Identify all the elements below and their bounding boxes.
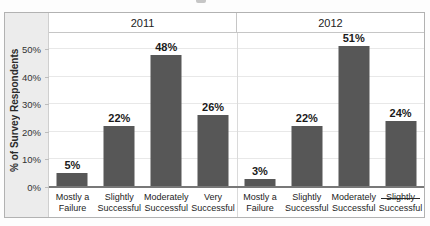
bar-2012-slightly xyxy=(291,126,322,187)
category-label: SlightlySuccessful xyxy=(283,192,330,214)
category-line2: Successful xyxy=(96,203,143,214)
bar-2011-mostly-a xyxy=(57,173,88,187)
category-label: SlightlySuccessful xyxy=(377,192,424,214)
bar-slot: 22% xyxy=(96,33,143,187)
category-line2: Successful xyxy=(377,203,424,214)
category-line1: Slightly xyxy=(292,192,321,202)
y-tick-label-10: 10% xyxy=(22,154,41,165)
bar-2011-very xyxy=(198,115,229,187)
bar-slot: 51% xyxy=(330,33,377,187)
y-tick-label-50: 50% xyxy=(22,44,41,55)
category-line1-struck: Slightly xyxy=(386,192,415,203)
y-tick-label-0: 0% xyxy=(27,182,41,193)
category-line2: Successful xyxy=(143,203,190,214)
chart-frame: % of Survey Respondents 0%10%20%30%40%50… xyxy=(4,12,425,218)
category-line2: Successful xyxy=(330,203,377,214)
bar-slot: 3% xyxy=(237,33,284,187)
bar-value-label: 22% xyxy=(283,112,330,124)
y-tick-label-30: 30% xyxy=(22,99,41,110)
category-line1: Moderately xyxy=(144,192,189,202)
cropped-title-fragment xyxy=(196,0,206,3)
category-labels-row: Mostly aFailureSlightlySuccessfulModerat… xyxy=(49,192,424,214)
category-label: SlightlySuccessful xyxy=(96,192,143,214)
plot-area: 5%22%48%26%3%22%51%24% Mostly aFailureSl… xyxy=(49,33,424,217)
bars-area: 5%22%48%26%3%22%51%24% xyxy=(49,33,424,187)
y-tick-label-20: 20% xyxy=(22,126,41,137)
category-line1: Slightly xyxy=(105,192,134,202)
y-axis-title: % of Survey Respondents xyxy=(7,33,21,187)
category-label: VerySuccessful xyxy=(190,192,237,214)
category-group-2011: Mostly aFailureSlightlySuccessfulModerat… xyxy=(49,192,237,214)
bar-value-label: 3% xyxy=(237,165,284,177)
panel-2012: 3%22%51%24% xyxy=(237,33,425,187)
bar-value-label: 5% xyxy=(49,159,96,171)
category-label: Mostly aFailure xyxy=(237,192,284,214)
category-label: Mostly aFailure xyxy=(49,192,96,214)
category-line2: Successful xyxy=(283,203,330,214)
x-axis-baseline xyxy=(49,186,424,188)
panel-header-2011: 2011 xyxy=(49,13,236,32)
category-line2: Successful xyxy=(190,203,237,214)
bar-2012-slightly xyxy=(385,121,416,187)
category-line1: Very xyxy=(204,192,222,202)
bar-2011-slightly xyxy=(104,126,135,187)
category-group-2012: Mostly aFailureSlightlySuccessfulModerat… xyxy=(237,192,425,214)
bar-value-label: 26% xyxy=(190,101,237,113)
bar-value-label: 24% xyxy=(377,107,424,119)
bar-slot: 26% xyxy=(190,33,237,187)
bar-value-label: 48% xyxy=(143,41,190,53)
category-line1: Mostly a xyxy=(56,192,90,202)
bar-slot: 48% xyxy=(143,33,190,187)
y-axis-band: % of Survey Respondents 0%10%20%30%40%50… xyxy=(5,13,49,217)
category-line1: Moderately xyxy=(331,192,376,202)
category-label: ModeratelySuccessful xyxy=(330,192,377,214)
y-tick-label-40: 40% xyxy=(22,71,41,82)
category-line1: Mostly a xyxy=(243,192,277,202)
bar-slot: 24% xyxy=(377,33,424,187)
bar-value-label: 51% xyxy=(330,32,377,44)
bar-value-label: 22% xyxy=(96,112,143,124)
category-line2: Failure xyxy=(237,203,284,214)
panel-header-2012: 2012 xyxy=(236,13,424,32)
bar-2012-moderately xyxy=(338,46,369,187)
screenshot-stage: % of Survey Respondents 0%10%20%30%40%50… xyxy=(0,0,430,226)
category-label: ModeratelySuccessful xyxy=(143,192,190,214)
panel-header-row: 2011 2012 xyxy=(49,13,424,33)
panel-2011: 5%22%48%26% xyxy=(49,33,237,187)
category-line2: Failure xyxy=(49,203,96,214)
bar-slot: 5% xyxy=(49,33,96,187)
bar-2011-moderately xyxy=(151,55,182,187)
bar-slot: 22% xyxy=(283,33,330,187)
